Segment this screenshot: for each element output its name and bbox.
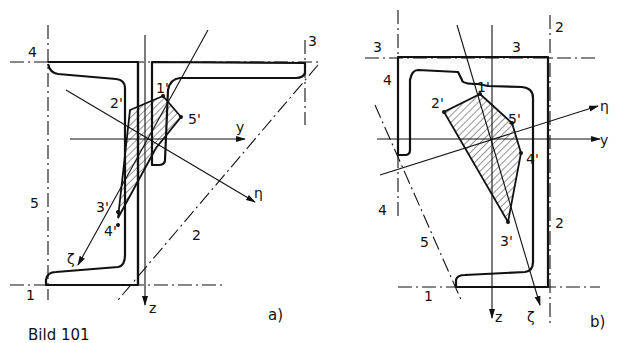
label-line-1: 1 — [424, 288, 433, 304]
line-5 — [375, 105, 462, 302]
label-point-5: 5' — [508, 111, 521, 127]
label-point-4: 4' — [104, 223, 117, 239]
label-line-2-right: 2 — [555, 215, 564, 231]
label-line-4: 4 — [28, 44, 37, 60]
label-axis-z: z — [495, 309, 502, 325]
label-line-3-right: 3 — [512, 39, 521, 55]
axis-zeta — [78, 30, 208, 265]
label-line-3-left: 3 — [373, 39, 382, 55]
figure-caption: Bild 101 — [28, 326, 90, 343]
label-point-5: 5' — [188, 111, 201, 127]
label-line-5: 5 — [30, 195, 39, 211]
channel-section — [398, 57, 548, 287]
label-line-4-bottom: 4 — [378, 202, 387, 218]
panel-label-b: b) — [590, 313, 605, 331]
label-line-4-top: 4 — [383, 72, 392, 88]
label-line-1: 1 — [26, 287, 35, 303]
panel-label-a: a) — [268, 306, 283, 324]
label-point-1: 1' — [156, 80, 169, 96]
panel-a: 4 5 1 3 2 1' 2' 3' 4' 5' y z η ζ a) — [10, 25, 320, 324]
label-axis-z: z — [149, 300, 156, 316]
label-line-2: 2 — [192, 227, 201, 243]
label-axis-y: y — [236, 119, 244, 135]
label-point-4: 4' — [526, 151, 539, 167]
label-point-2: 2' — [110, 95, 123, 111]
panel-b: 2 3 3 4 4 5 2 1 1' 2' 3' 4' 5' y η z ζ b… — [365, 10, 609, 331]
label-line-2-top: 2 — [555, 19, 564, 35]
label-line-5: 5 — [420, 234, 429, 250]
label-point-2: 2' — [431, 95, 444, 111]
label-point-3: 3' — [96, 199, 109, 215]
label-line-3: 3 — [308, 33, 317, 49]
label-axis-eta: η — [254, 185, 263, 201]
label-point-1: 1' — [477, 79, 490, 95]
figure-canvas: 4 5 1 3 2 1' 2' 3' 4' 5' y z η ζ a) Bild… — [0, 0, 623, 343]
label-point-3: 3' — [500, 233, 513, 249]
label-axis-zeta: ζ — [527, 309, 535, 325]
core-polygon — [118, 96, 181, 218]
label-axis-zeta: ζ — [67, 251, 75, 267]
line-2 — [118, 65, 318, 300]
label-axis-y: y — [600, 132, 608, 148]
label-axis-eta: η — [600, 98, 609, 114]
